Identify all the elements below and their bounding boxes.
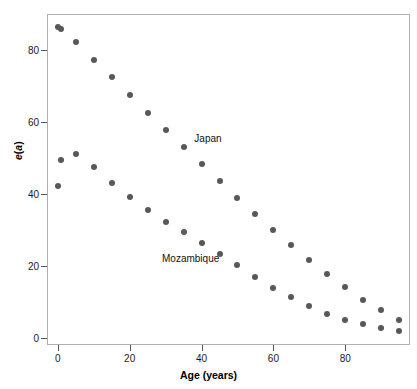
x-axis-tick-label: 20 — [124, 353, 135, 364]
data-point — [234, 262, 240, 268]
data-point — [199, 240, 205, 246]
data-point — [396, 328, 402, 334]
data-point — [288, 242, 294, 248]
data-point — [91, 57, 97, 63]
data-point — [181, 144, 187, 150]
data-point — [199, 161, 205, 167]
data-point — [270, 285, 276, 291]
data-point — [73, 151, 79, 157]
data-point — [378, 325, 384, 331]
x-axis-tick — [345, 345, 346, 351]
data-point — [127, 92, 133, 98]
data-point — [360, 297, 366, 303]
y-axis-tick-label: 80 — [28, 44, 39, 55]
data-point — [217, 178, 223, 184]
x-axis-tick — [130, 345, 131, 351]
chart-figure: 020406080020406080 e(a) Age (years) Japa… — [0, 0, 417, 389]
series-label-mozambique: Mozambique — [162, 253, 219, 264]
data-point — [109, 180, 115, 186]
data-point — [127, 194, 133, 200]
data-point — [109, 74, 115, 80]
x-axis-tick-label: 60 — [268, 353, 279, 364]
data-point — [306, 257, 312, 263]
series-label-japan: Japan — [194, 133, 221, 144]
data-point — [306, 303, 312, 309]
data-point — [58, 26, 64, 32]
data-point — [270, 227, 276, 233]
data-point — [324, 271, 330, 277]
data-point — [91, 164, 97, 170]
data-point — [145, 207, 151, 213]
y-axis-title: e(a) — [12, 141, 24, 160]
data-point — [342, 317, 348, 323]
data-point — [234, 195, 240, 201]
data-point — [163, 219, 169, 225]
data-point — [324, 311, 330, 317]
data-point — [252, 274, 258, 280]
data-point — [181, 229, 187, 235]
x-axis-tick-label: 40 — [196, 353, 207, 364]
data-point — [378, 307, 384, 313]
x-axis-tick — [58, 345, 59, 351]
y-axis-title-text: e(a) — [12, 141, 24, 160]
x-axis-tick — [202, 345, 203, 351]
y-axis-tick-label: 60 — [28, 116, 39, 127]
data-point — [58, 157, 64, 163]
y-axis-tick — [41, 194, 47, 195]
y-axis-tick-label: 20 — [28, 260, 39, 271]
x-axis-tick — [273, 345, 274, 351]
data-point — [342, 284, 348, 290]
y-axis-tick — [41, 122, 47, 123]
data-point — [396, 317, 402, 323]
y-axis-tick-label: 40 — [28, 188, 39, 199]
y-axis-tick — [41, 50, 47, 51]
x-axis-title: Age (years) — [0, 369, 417, 381]
x-axis-tick-label: 0 — [55, 353, 61, 364]
x-axis-tick-label: 80 — [340, 353, 351, 364]
data-point — [73, 39, 79, 45]
y-axis-tick — [41, 338, 47, 339]
data-point — [288, 294, 294, 300]
data-point — [145, 110, 151, 116]
data-point — [252, 211, 258, 217]
y-axis-tick — [41, 266, 47, 267]
data-point — [360, 321, 366, 327]
data-point — [163, 127, 169, 133]
y-axis-tick-label: 0 — [33, 332, 39, 343]
data-point — [55, 183, 61, 189]
scatter-data-layer — [47, 14, 410, 345]
